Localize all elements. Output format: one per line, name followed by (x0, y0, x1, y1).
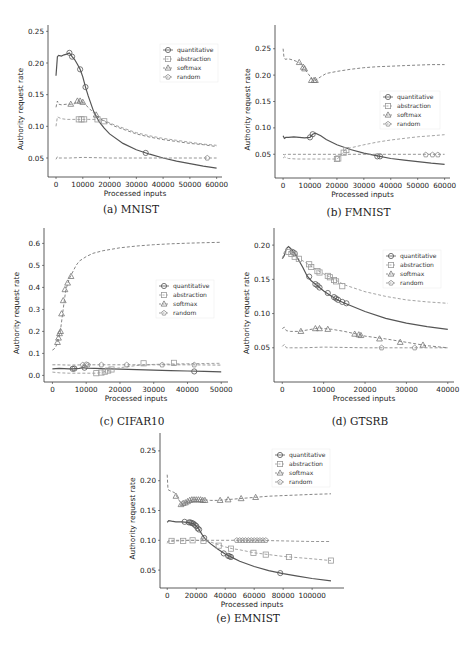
y-tick-label: 0.10 (28, 122, 44, 131)
legend-entry-softmax: softmax (289, 469, 314, 476)
y-tick-label: 0.05 (255, 150, 271, 159)
abstraction-line (56, 117, 217, 146)
series-softmax (282, 326, 448, 348)
softmax-marker (80, 99, 86, 104)
series-quantitative (167, 519, 331, 581)
random-line (56, 157, 217, 160)
x-tick-label: 100000 (298, 591, 326, 600)
y-axis-label: Authority request rate (243, 68, 252, 150)
y-tick-label: 0.15 (140, 506, 156, 515)
y-tick-label: 0.15 (254, 275, 270, 284)
abstraction-marker (317, 270, 322, 275)
y-tick-label: 0.4 (29, 283, 41, 292)
y-axis-label: Authority request rate (12, 272, 21, 354)
series-random (167, 538, 331, 544)
legend-entry-quantitative: quantitative (177, 46, 214, 54)
abstraction-line (167, 540, 331, 560)
x-tick-label: 0 (165, 591, 170, 600)
subfigure-caption: (c) CIFAR10 (100, 415, 165, 427)
legend-entry-abstraction: abstraction (397, 102, 431, 109)
x-tick-label: 50000 (406, 181, 429, 190)
y-axis-label: Authority request rate (242, 272, 251, 354)
x-tick-label: 0 (280, 385, 285, 394)
softmax-marker (60, 298, 66, 303)
y-tick-label: 0.20 (254, 241, 270, 250)
subfigure-caption: (e) EMNIST (216, 612, 280, 624)
legend-entry-quantitative: quantitative (397, 93, 434, 101)
subfigure-caption: (b) FMNIST (327, 206, 391, 218)
y-tick-label: 0.10 (255, 123, 271, 132)
legend-entry-abstraction: abstraction (400, 261, 434, 268)
chart-c: 0.00.10.20.30.40.50.60100002000030000400… (12, 228, 233, 427)
x-tick-label: 80000 (272, 591, 295, 600)
legend-entry-random: random (173, 309, 196, 316)
abstraction-marker (102, 119, 107, 124)
series-abstraction (283, 135, 445, 162)
y-tick-label: 0.20 (255, 71, 271, 80)
x-tick-label: 20000 (109, 385, 132, 394)
series-softmax (283, 49, 445, 83)
legend-entry-softmax: softmax (173, 300, 198, 307)
x-axis-label: Processed inputs (105, 394, 168, 403)
x-tick-label: 0 (50, 385, 55, 394)
y-tick-label: 0.6 (29, 239, 41, 248)
x-axis-label: Processed inputs (333, 394, 396, 403)
y-tick-label: 0.25 (140, 446, 156, 455)
softmax-line (56, 101, 217, 147)
x-tick-label: 40000 (436, 385, 459, 394)
softmax-line (283, 49, 445, 81)
x-tick-label: 20000 (354, 385, 377, 394)
y-tick-label: 0.05 (254, 343, 270, 352)
y-tick-label: 0.5 (29, 261, 40, 270)
x-axis-label: Processed inputs (331, 190, 394, 199)
softmax-marker (68, 101, 74, 106)
chart-d: 0.050.100.150.20010000200003000040000Pro… (242, 228, 460, 427)
legend: quantitativeabstractionsoftmaxrandom (272, 449, 330, 487)
y-tick-label: 0.05 (28, 154, 44, 163)
softmax-marker (397, 339, 403, 344)
quantitative-line (167, 521, 331, 581)
legend-entry-quantitative: quantitative (289, 451, 326, 459)
x-tick-label: 30000 (142, 385, 165, 394)
y-tick-label: 0.10 (254, 309, 270, 318)
y-axis-label: Authority request rate (16, 68, 25, 150)
x-tick-label: 40000 (379, 181, 402, 190)
softmax-marker (296, 59, 302, 64)
series-random (56, 155, 217, 160)
x-tick-label: 10000 (75, 385, 98, 394)
legend: quantitativeabstractionsoftmaxrandom (383, 250, 441, 288)
softmax-marker (59, 311, 65, 316)
y-tick-label: 0.0 (29, 371, 41, 380)
x-tick-label: 20000 (98, 180, 121, 189)
subfigure-caption: (a) MNIST (103, 203, 159, 215)
y-tick-label: 0.2 (29, 327, 40, 336)
legend-entry-softmax: softmax (177, 64, 202, 71)
legend-entry-softmax: softmax (400, 270, 425, 277)
y-axis-label: Authority request rate (128, 477, 137, 559)
legend-entry-quantitative: quantitative (400, 252, 437, 260)
y-tick-label: 0.25 (28, 27, 44, 36)
x-tick-label: 60000 (243, 591, 266, 600)
x-tick-label: 10000 (312, 385, 335, 394)
x-tick-label: 30000 (125, 180, 148, 189)
y-tick-label: 0.20 (28, 59, 44, 68)
x-tick-label: 20000 (325, 181, 348, 190)
y-tick-label: 0.15 (255, 97, 271, 106)
random-line (283, 154, 445, 155)
softmax-line (282, 327, 448, 348)
x-tick-label: 10000 (71, 180, 94, 189)
legend-entry-random: random (397, 120, 420, 127)
x-tick-label: 10000 (299, 181, 322, 190)
y-tick-label: 0.1 (29, 349, 40, 358)
legend-entry-random: random (177, 73, 200, 80)
x-axis-label: Processed inputs (104, 189, 167, 198)
series-abstraction (56, 117, 217, 146)
x-tick-label: 40000 (176, 385, 199, 394)
legend-entry-random: random (400, 279, 423, 286)
x-tick-label: 20000 (185, 591, 208, 600)
x-tick-label: 60000 (433, 181, 456, 190)
y-tick-label: 0.20 (140, 476, 156, 485)
y-tick-label: 0.25 (255, 44, 271, 53)
legend-entry-softmax: softmax (397, 111, 422, 118)
chart-e: 0.050.100.150.200.2502000040000600008000… (128, 433, 344, 624)
